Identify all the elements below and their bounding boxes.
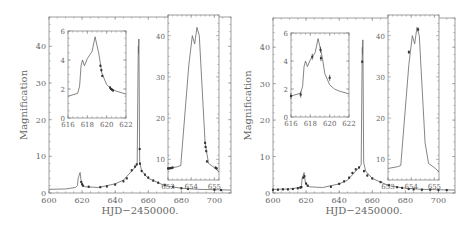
inset1-left-xtick-label: 622 (119, 121, 132, 129)
inset2-data-point (408, 51, 410, 53)
main-left-ytick-label: 20 (36, 116, 46, 125)
data-point (297, 187, 299, 189)
data-point (136, 163, 138, 165)
inset2-right-ytick-label: 10 (376, 156, 385, 164)
inset2-left-xtick-label: 653 (161, 183, 174, 191)
panel-left: 6006206406606807000102030406166186206220… (18, 15, 231, 216)
inset2-right-ytick-label: 30 (376, 74, 385, 82)
main-right-xtick-label: 680 (398, 196, 413, 205)
inset1-data-point (320, 57, 322, 59)
inset1-left-ytick-label: 6 (61, 28, 66, 36)
data-point (351, 172, 353, 174)
main-left-xtick-label: 640 (108, 196, 123, 205)
data-point (330, 186, 332, 188)
data-point (144, 174, 146, 176)
data-point (126, 177, 128, 179)
main-right-xtick-label: 640 (332, 196, 347, 205)
panel-right: 6006206406606807000102030406166186206220… (242, 15, 455, 216)
data-point (358, 166, 360, 168)
inset2-data-point (205, 150, 207, 152)
inset1-data-point (112, 89, 114, 91)
inset2-right-xtick-label: 654 (404, 183, 418, 191)
inset1-data-point (311, 56, 313, 58)
inset1-data-point (290, 95, 292, 97)
data-point (99, 186, 101, 188)
data-point (371, 177, 373, 179)
main-right-ytick-label: 10 (260, 153, 270, 162)
y-axis-label: Magnification (242, 70, 253, 141)
inset2-data-point (205, 146, 207, 148)
y-axis-label: Magnification (18, 69, 29, 140)
data-point (277, 189, 279, 191)
inset1-right-ytick-label: 6 (284, 30, 289, 38)
x-axis-label: HJD−2450000. (326, 205, 403, 216)
data-point (139, 148, 141, 150)
main-left-ytick-label: 40 (36, 42, 46, 51)
inset2-right-ytick-label: 40 (376, 33, 385, 41)
inset1-right-xtick-label: 620 (323, 120, 336, 128)
inset1-data-point (101, 75, 103, 77)
inset2-data-point (206, 160, 208, 162)
main-left-xtick-label: 620 (74, 196, 89, 205)
data-point (272, 189, 274, 191)
data-point (147, 177, 149, 179)
main-right-xtick-label: 700 (431, 196, 446, 205)
data-point (366, 175, 368, 177)
main-right-ytick-label: 40 (260, 43, 270, 52)
inset1-right-xtick-label: 618 (304, 120, 317, 128)
data-point (152, 180, 154, 182)
data-point (348, 177, 350, 179)
data-point (106, 185, 108, 187)
main-right-xtick-label: 620 (298, 196, 313, 205)
main-left-ytick-label: 30 (36, 79, 46, 88)
data-point (134, 166, 136, 168)
data-point (139, 163, 141, 165)
main-left-xtick-label: 680 (174, 196, 189, 205)
data-point (361, 61, 363, 63)
main-left-ytick-label: 10 (36, 152, 46, 161)
data-point (421, 189, 423, 191)
inset1-left-xtick-label: 618 (81, 121, 94, 129)
inset2-data-point (216, 167, 218, 169)
inset1-data-point (319, 49, 321, 51)
data-point (343, 180, 345, 182)
inset2-right-xtick-label: 653 (381, 183, 394, 191)
inset2-data-point (172, 167, 174, 169)
inset2-left-ytick-label: 40 (156, 33, 165, 41)
inset1-data-point (300, 94, 302, 96)
figure: 6006206406606807000102030406166186206220… (0, 0, 474, 230)
inset2-right-xtick-label: 655 (428, 183, 441, 191)
inset1-data-point (99, 65, 101, 67)
data-point (287, 188, 289, 190)
data-point (305, 183, 307, 185)
data-point (292, 188, 294, 190)
inset1-data-point (329, 77, 331, 79)
inset1-right-ytick-label: 2 (284, 86, 288, 94)
inset1-left-ytick-label: 0 (61, 115, 65, 123)
inset1-left-xtick-label: 620 (100, 121, 113, 129)
data-point (141, 170, 143, 172)
x-axis-label: HJD−2450000. (102, 205, 179, 216)
inset1-right-ytick-label: 4 (284, 58, 289, 66)
main-right-ytick-label: 30 (260, 80, 270, 89)
inset2-right-ytick-label: 20 (376, 115, 385, 123)
main-right-ytick-label: 20 (260, 116, 270, 125)
data-point (363, 170, 365, 172)
main-left-xtick-label: 660 (141, 196, 156, 205)
inset1-left-ytick-label: 2 (61, 86, 65, 94)
data-point (401, 187, 403, 189)
inset2-left-xtick-label: 654 (184, 183, 198, 191)
data-point (114, 184, 116, 186)
data-point (82, 185, 84, 187)
inset2-left-xtick-label: 655 (208, 183, 221, 191)
inset1-right-xtick-label: 622 (342, 120, 355, 128)
data-point (396, 186, 398, 188)
main-right-ytick-label: 0 (265, 189, 270, 198)
data-point (446, 189, 448, 191)
inset1-right-ytick-label: 0 (284, 114, 288, 122)
data-point (300, 186, 302, 188)
data-point (355, 168, 357, 170)
main-left-xtick-label: 700 (207, 196, 222, 205)
main-left-ytick-label: 0 (41, 189, 46, 198)
inset2-data-point (204, 142, 206, 144)
